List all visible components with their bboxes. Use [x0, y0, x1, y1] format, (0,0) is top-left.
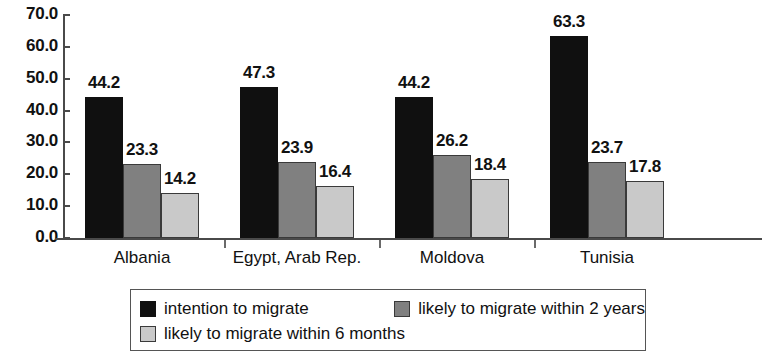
bar-value-label: 44.2	[387, 73, 441, 93]
y-axis-tick-label: 60.0	[2, 36, 58, 56]
bar	[626, 181, 664, 238]
bar-value-label: 23.3	[115, 140, 169, 160]
x-axis-category-label: Tunisia	[497, 248, 717, 268]
bar	[550, 36, 588, 238]
bar	[395, 97, 433, 238]
bar	[316, 186, 354, 238]
bar	[471, 179, 509, 238]
x-axis-tick	[534, 240, 536, 248]
bar-value-label: 23.9	[270, 138, 324, 158]
legend-item-likely-6-months: likely to migrate within 6 months	[140, 321, 405, 346]
bar-value-label: 16.4	[308, 162, 362, 182]
bar-value-label: 47.3	[232, 63, 286, 83]
y-axis-tick-label: 10.0	[2, 195, 58, 215]
chart-legend: intention to migrate likely to migrate w…	[130, 289, 646, 351]
x-axis-line	[55, 238, 762, 240]
y-axis-tick	[63, 110, 70, 112]
bar	[85, 97, 123, 238]
legend-label: intention to migrate	[164, 299, 309, 319]
bar	[240, 87, 278, 238]
light-gray-swatch-icon	[140, 326, 156, 342]
y-axis-tick	[63, 46, 70, 48]
bar	[161, 193, 199, 238]
y-axis-tick-label: 40.0	[2, 100, 58, 120]
bar-value-label: 44.2	[77, 73, 131, 93]
x-axis-tick	[379, 240, 381, 248]
y-axis-tick	[63, 173, 70, 175]
legend-item-likely-2-years: likely to migrate within 2 years	[394, 296, 645, 321]
bar-value-label: 23.7	[580, 138, 634, 158]
y-axis-tick	[63, 141, 70, 143]
legend-row-1: intention to migrate likely to migrate w…	[140, 296, 645, 321]
y-axis-tick-label: 0.0	[2, 227, 58, 247]
dark-gray-swatch-icon	[394, 301, 410, 317]
legend-label: likely to migrate within 2 years	[418, 299, 645, 319]
black-swatch-icon	[140, 301, 156, 317]
y-axis-tick-label: 20.0	[2, 163, 58, 183]
x-axis-tick	[224, 240, 226, 248]
bar-value-label: 14.2	[153, 169, 207, 189]
bar-value-label: 26.2	[425, 131, 479, 151]
bar-value-label: 63.3	[542, 12, 596, 32]
y-axis-tick-label: 70.0	[2, 4, 58, 24]
y-axis-tick-label: 50.0	[2, 68, 58, 88]
bar-value-label: 17.8	[618, 157, 672, 177]
legend-row-2: likely to migrate within 6 months	[140, 321, 645, 346]
bar-value-label: 18.4	[463, 155, 517, 175]
y-axis-tick	[63, 14, 70, 16]
y-axis-tick-label: 30.0	[2, 131, 58, 151]
y-axis-tick	[63, 78, 70, 80]
legend-label: likely to migrate within 6 months	[164, 324, 405, 344]
legend-item-intention-to-migrate: intention to migrate	[140, 296, 394, 321]
bar-chart: 0.010.020.030.040.050.060.070.0 44.223.3…	[0, 0, 770, 353]
y-axis-tick	[63, 205, 70, 207]
